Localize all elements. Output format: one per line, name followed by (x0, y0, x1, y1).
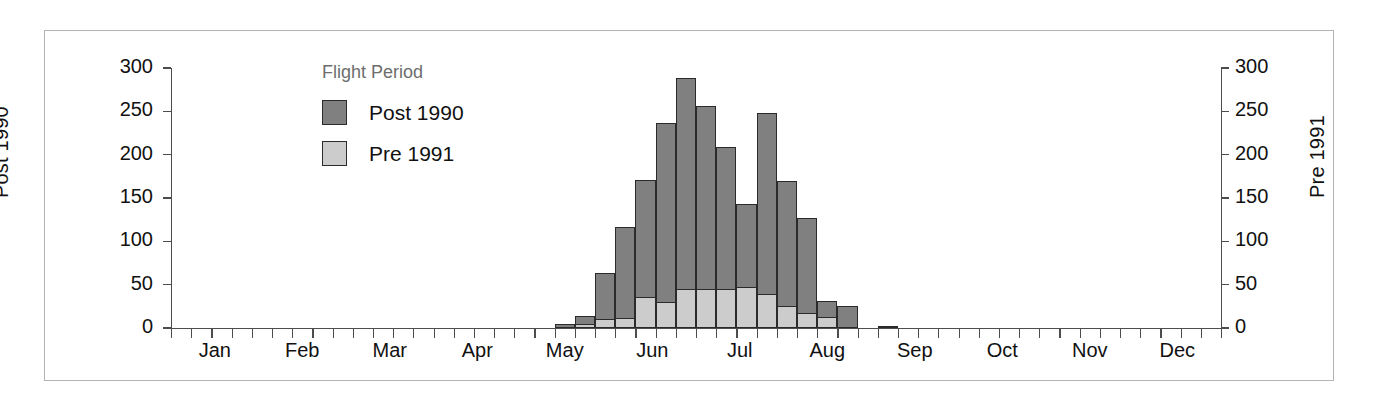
bar-pre-1991 (575, 324, 595, 328)
legend-title: Flight Period (322, 62, 464, 83)
bar-pre-1991 (656, 302, 676, 328)
bar-post-1990 (555, 324, 575, 328)
bar-series-layer (0, 0, 1374, 408)
legend-swatch-post-1990 (322, 100, 347, 125)
chart-canvas: Post 1990 Pre 1991 050100150200250300 05… (0, 0, 1374, 408)
legend-item-post-1990[interactable]: Post 1990 (322, 100, 464, 125)
bar-pre-1991 (716, 289, 736, 328)
bar-post-1990 (656, 123, 676, 328)
bar-post-1990 (837, 306, 857, 328)
bar-post-1990 (878, 326, 898, 328)
bar-pre-1991 (797, 313, 817, 328)
bar-pre-1991 (615, 318, 635, 328)
bar-pre-1991 (676, 289, 696, 328)
legend-label-pre-1991: Pre 1991 (369, 142, 454, 166)
bar-pre-1991 (757, 294, 777, 328)
bar-pre-1991 (777, 306, 797, 328)
bar-pre-1991 (635, 297, 655, 328)
bar-post-1990 (615, 227, 635, 328)
legend-item-pre-1991[interactable]: Pre 1991 (322, 141, 464, 166)
legend-label-post-1990: Post 1990 (369, 101, 464, 125)
bar-pre-1991 (595, 319, 615, 328)
bar-pre-1991 (817, 317, 837, 328)
bar-post-1990 (797, 218, 817, 328)
legend-swatch-pre-1991 (322, 141, 347, 166)
bar-pre-1991 (736, 287, 756, 328)
legend: Flight Period Post 1990 Pre 1991 (322, 62, 464, 182)
bar-pre-1991 (696, 289, 716, 328)
